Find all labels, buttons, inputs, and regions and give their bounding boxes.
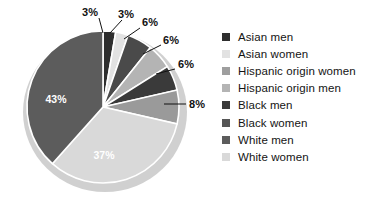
leader-line-asian-women (110, 20, 122, 33)
legend-item-label: Asian women (238, 48, 308, 60)
legend-item-label: Black women (238, 117, 308, 129)
legend-item[interactable]: Asian women (222, 45, 380, 62)
legend-swatch-icon (222, 136, 230, 144)
legend-swatch-icon (222, 101, 230, 109)
chart-legend: Asian menAsian womenHispanic origin wome… (222, 28, 380, 166)
pie-chart: 3% 3% 6% 6% 6% 8% 43% 37% (0, 0, 215, 207)
legend-item-label: Hispanic origin women (238, 65, 356, 77)
legend-swatch-icon (222, 33, 230, 41)
callout-label-hispanic-origin-men: 6% (163, 34, 179, 46)
legend-item[interactable]: Asian men (222, 28, 380, 45)
legend-item[interactable]: White women (222, 148, 380, 165)
legend-swatch-icon (222, 84, 230, 92)
inside-label-white-women: 43% (45, 93, 67, 105)
chart-page: 3% 3% 6% 6% 6% 8% 43% 37% Asian menAsian… (0, 0, 381, 207)
inside-label-white-men: 37% (93, 149, 115, 161)
legend-item[interactable]: Hispanic origin men (222, 80, 380, 97)
legend-swatch-icon (222, 153, 230, 161)
legend-item[interactable]: Hispanic origin women (222, 62, 380, 79)
callout-label-hispanic-origin-women: 6% (142, 16, 158, 28)
legend-item-label: Black men (238, 99, 293, 111)
legend-swatch-icon (222, 119, 230, 127)
callout-label-asian-men: 3% (82, 6, 98, 18)
legend-swatch-icon (222, 50, 230, 58)
callout-label-black-women: 8% (189, 98, 205, 110)
callout-label-black-men: 6% (178, 58, 194, 70)
legend-item[interactable]: Black men (222, 97, 380, 114)
legend-item-label: White women (238, 151, 309, 163)
callout-label-asian-women: 3% (118, 8, 134, 20)
legend-item-label: Asian men (238, 31, 293, 43)
legend-item[interactable]: White men (222, 131, 380, 148)
legend-item[interactable]: Black women (222, 114, 380, 131)
legend-swatch-icon (222, 67, 230, 75)
legend-item-label: Hispanic origin men (238, 82, 341, 94)
pie-chart-svg: 3% 3% 6% 6% 6% 8% 43% 37% (0, 0, 215, 207)
legend-item-label: White men (238, 134, 294, 146)
